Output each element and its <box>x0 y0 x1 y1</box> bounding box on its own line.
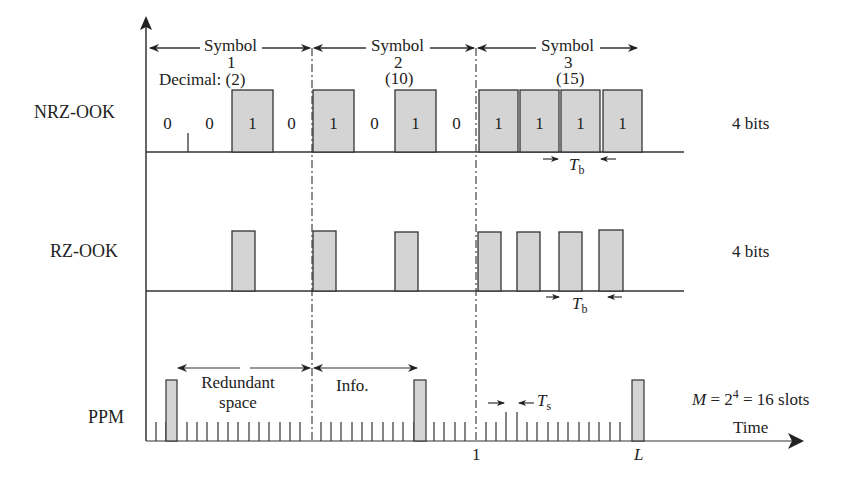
nrz-bits-label: 4 bits <box>732 114 769 134</box>
time-axis-label: Time <box>733 418 768 438</box>
rz-waveform <box>146 230 684 291</box>
ts-label: Ts <box>537 391 551 414</box>
info-label: Info. <box>336 376 369 396</box>
ppm-slot-ticks <box>156 412 620 441</box>
redundant-space-label: Redundant space <box>188 373 288 413</box>
y-axis <box>140 16 152 441</box>
nrz-bit: 0 <box>436 114 477 134</box>
nrz-bit: 1 <box>560 114 601 134</box>
m-slots-label: M = 24 = 16 slots <box>692 387 809 410</box>
nrz-bit: 1 <box>602 114 643 134</box>
nrz-bit: 1 <box>313 114 354 134</box>
rz-bits-label: 4 bits <box>732 242 769 262</box>
nrz-ook-label: NRZ-OOK <box>34 102 115 123</box>
symbol-2-decimal: (10) <box>385 69 413 89</box>
slot-one-label: 1 <box>472 445 481 465</box>
tb-rz-label: Tb <box>572 294 587 317</box>
nrz-bit: 0 <box>189 114 230 134</box>
nrz-bit: 0 <box>147 114 188 134</box>
symbol-3-decimal: (15) <box>556 69 584 89</box>
symbol-1-decimal: Decimal: (2) <box>159 70 245 90</box>
nrz-bit: 1 <box>478 114 519 134</box>
tb-nrz-label: Tb <box>569 155 584 178</box>
slot-l-label: L <box>634 445 643 465</box>
nrz-bit: 1 <box>519 114 560 134</box>
rz-ook-label: RZ-OOK <box>50 241 118 262</box>
nrz-bit: 1 <box>232 114 273 134</box>
nrz-bit: 1 <box>395 114 436 134</box>
ppm-label: PPM <box>88 407 124 428</box>
nrz-bit: 0 <box>354 114 395 134</box>
nrz-bit: 0 <box>271 114 312 134</box>
